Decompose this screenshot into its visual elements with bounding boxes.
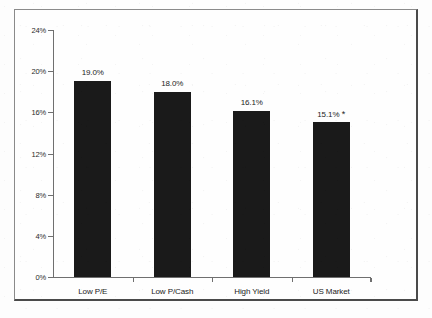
- bar-value-text: 19.0%: [82, 68, 104, 77]
- y-axis-line: [53, 30, 54, 278]
- y-axis-tick: [48, 195, 53, 196]
- bar-value-label: 19.0%: [53, 68, 133, 77]
- bar-value-text: 16.1%: [241, 98, 263, 107]
- y-axis-tick-label: 24%: [2, 26, 46, 35]
- y-axis-tick-label: 0%: [2, 273, 46, 282]
- category-label: Low P/Cash: [127, 287, 217, 296]
- y-axis-tick: [48, 30, 53, 31]
- x-axis-tick: [292, 278, 293, 282]
- y-axis-tick: [48, 154, 53, 155]
- bar-value-text: 15.1%: [317, 110, 339, 119]
- bar-value-label: 18.0%: [132, 79, 212, 88]
- y-axis-tick-label: 8%: [2, 190, 46, 199]
- bar-value-text: 18.0%: [161, 79, 183, 88]
- bar-value-label: 16.1%: [212, 98, 292, 107]
- x-axis-tick: [371, 278, 372, 282]
- x-axis-tick: [133, 278, 134, 282]
- bar: [74, 81, 111, 277]
- y-axis-tick: [48, 112, 53, 113]
- y-axis-tick-label: 12%: [2, 149, 46, 158]
- bar-value-label: 15.1% *: [291, 109, 371, 119]
- y-axis-tick: [48, 236, 53, 237]
- category-label: Low P/E: [48, 287, 138, 296]
- bar-value-footnote-marker: *: [339, 109, 345, 119]
- bar: [154, 92, 191, 277]
- y-axis-tick-label: 4%: [2, 231, 46, 240]
- category-label: High Yield: [207, 287, 297, 296]
- x-axis-tick: [212, 278, 213, 282]
- category-label: US Market: [286, 287, 376, 296]
- chart-screenshot: 24%20%16%12%8%4%0% 19.0%18.0%16.1%15.1% …: [0, 0, 432, 318]
- y-axis-tick-label: 20%: [2, 67, 46, 76]
- y-axis-tick-label: 16%: [2, 108, 46, 117]
- bar: [233, 111, 270, 277]
- bar: [313, 122, 350, 277]
